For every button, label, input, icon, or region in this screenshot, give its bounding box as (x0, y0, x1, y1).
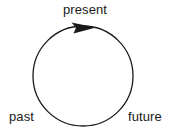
cycle-circle (33, 26, 133, 126)
label-future: future (128, 110, 162, 124)
label-past: past (9, 110, 34, 124)
label-present: present (0, 3, 170, 17)
clockwise-arrowhead-icon (72, 23, 97, 34)
cycle-diagram: present past future (0, 0, 170, 134)
